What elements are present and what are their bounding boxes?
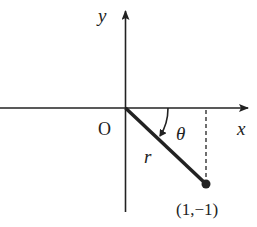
point-marker xyxy=(202,180,211,189)
radius-segment xyxy=(126,108,207,184)
polar-diagram: y x O r θ (1,−1) xyxy=(0,0,257,227)
origin-label: O xyxy=(98,119,111,139)
y-axis-label: y xyxy=(96,5,107,26)
radius-label: r xyxy=(144,146,152,167)
angle-arc-icon xyxy=(160,108,168,136)
x-axis-label: x xyxy=(236,118,246,139)
point-label: (1,−1) xyxy=(176,200,218,219)
angle-label: θ xyxy=(176,123,185,144)
